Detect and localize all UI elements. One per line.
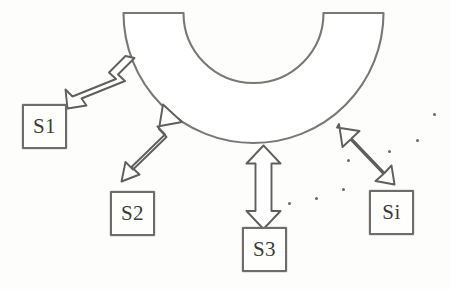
connector-s3 xyxy=(247,146,281,230)
ellipsis-dot xyxy=(288,202,291,205)
diagram-vector-layer xyxy=(0,0,451,289)
node-s3[interactable]: S3 xyxy=(242,227,287,272)
ellipsis-dot xyxy=(416,139,419,142)
node-s2[interactable]: S2 xyxy=(110,191,155,236)
ellipsis-dot xyxy=(347,159,350,162)
node-si-label: Si xyxy=(382,202,401,223)
connector-s2 xyxy=(122,105,183,182)
node-s1-label: S1 xyxy=(33,116,56,137)
connector-si xyxy=(337,124,395,185)
connector-s1 xyxy=(66,56,135,109)
node-s2-label: S2 xyxy=(121,203,144,224)
node-si[interactable]: Si xyxy=(369,190,414,235)
ellipsis-dot xyxy=(342,188,345,191)
ellipsis-dot xyxy=(388,150,391,153)
node-s3-label: S3 xyxy=(253,239,276,260)
node-s1[interactable]: S1 xyxy=(22,104,67,149)
diagram-canvas: S1 S2 S3 Si xyxy=(0,0,451,289)
ellipsis-dot xyxy=(433,113,436,116)
ellipsis-dot xyxy=(315,197,318,200)
